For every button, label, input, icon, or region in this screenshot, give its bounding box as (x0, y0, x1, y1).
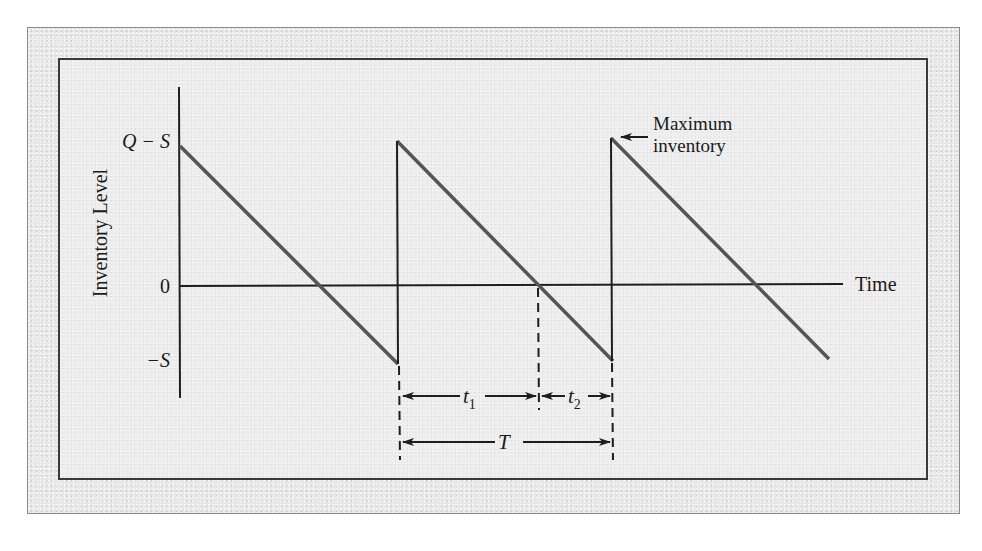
y-axis (179, 87, 180, 398)
x-axis-time (180, 284, 843, 286)
max-inventory-label-line2: inventory (653, 135, 726, 156)
T-label: T (498, 430, 511, 454)
inventory-diagram: Q − S 0 −S Inventory Level Time Maximum … (0, 0, 982, 551)
tick-label-minus-s: −S (147, 349, 171, 371)
x-axis-label: Time (855, 273, 897, 295)
t1-label: t1 (463, 384, 476, 412)
t2-label: t2 (568, 384, 581, 412)
max-inventory-label-line1: Maximum (653, 113, 732, 134)
tick-label-q-minus-s: Q − S (122, 130, 170, 152)
tick-label-zero: 0 (160, 275, 170, 297)
inventory-sawtooth (180, 138, 829, 364)
y-axis-label: Inventory Level (89, 168, 112, 297)
